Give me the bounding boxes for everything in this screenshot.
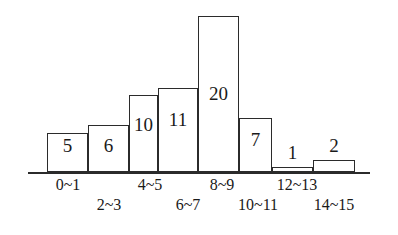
bar-value-label: 7 <box>239 130 272 149</box>
x-tick-label: 14~15 <box>294 196 374 213</box>
x-tick-label: 2~3 <box>69 196 149 213</box>
x-tick-label: 10~11 <box>218 196 298 213</box>
x-tick-label: 4~5 <box>110 176 190 193</box>
x-tick-label: 6~7 <box>148 196 228 213</box>
histogram-chart: 56101120712 0~12~34~56~78~910~1112~1314~… <box>0 0 398 235</box>
bar-value-label: 1 <box>272 143 313 162</box>
bar-value-label: 5 <box>47 136 88 155</box>
x-tick-label: 12~13 <box>257 176 337 193</box>
bar-value-label: 6 <box>88 136 129 155</box>
bar-value-label: 20 <box>198 84 239 103</box>
x-tick-label: 0~1 <box>28 176 108 193</box>
histogram-bar <box>158 88 198 172</box>
x-tick-label: 8~9 <box>182 176 262 193</box>
histogram-bar <box>313 160 355 172</box>
bar-value-label: 11 <box>158 110 198 129</box>
bar-value-label: 10 <box>129 115 158 134</box>
x-axis-line <box>28 172 370 174</box>
bar-value-label: 2 <box>313 136 355 155</box>
